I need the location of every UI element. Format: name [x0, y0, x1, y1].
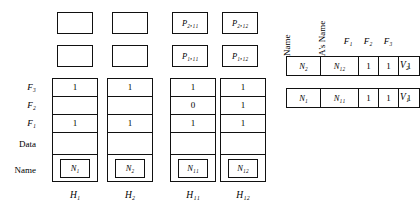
node-h11-name-value: N₁₁ — [178, 159, 208, 178]
node-h1[interactable]: 1 1 N₁ — [52, 78, 98, 182]
node-h1-cell-data — [53, 133, 97, 155]
row-label-f2: F₂ — [8, 100, 36, 110]
pointer-box-h2-mid[interactable] — [112, 45, 148, 67]
table-header-ancestor-name: A's Name — [317, 21, 327, 56]
node-h11[interactable]: 1 0 1 N₁₁ — [170, 78, 216, 182]
node-h11-cell-f1: 1 — [171, 115, 215, 133]
node-h11-cell-f3: 1 — [171, 79, 215, 97]
node-h12-cell-data — [221, 133, 265, 155]
node-h1-cell-f3: 1 — [53, 79, 97, 97]
node-h1-cell-f1: 1 — [53, 115, 97, 133]
pointer-box-h1-top[interactable] — [57, 12, 93, 34]
node-h12-name-value: N₁₂ — [228, 159, 258, 178]
node-h12-cell-f3: 1 — [221, 79, 265, 97]
pointer-box-h1-mid[interactable] — [57, 45, 93, 67]
node-h12-cell-f1: 1 — [221, 115, 265, 133]
table-header-name: Name — [282, 35, 292, 57]
pointer-box-h12-mid[interactable]: P₁,₁₂ — [222, 45, 258, 67]
tuple-v1-name: N₁ — [287, 89, 321, 107]
caption-h12: H₁₂ — [220, 190, 266, 200]
node-h12-cell-f2: 1 — [221, 97, 265, 115]
tuple-v2-label: V₂ — [400, 60, 409, 70]
tuple-v1-ancestor-name: N₁₁ — [321, 89, 359, 107]
caption-h1: H₁ — [52, 190, 98, 200]
pointer-box-h2-top[interactable] — [112, 12, 148, 34]
caption-h2: H₂ — [107, 190, 153, 200]
row-label-name: Name — [1, 165, 36, 175]
node-h2-cell-f1: 1 — [108, 115, 152, 133]
table-header-f3: F₃ — [378, 36, 398, 46]
tuple-v2-name: N₂ — [287, 57, 321, 75]
node-h12-cell-name: N₁₂ — [221, 155, 265, 181]
node-h2-cell-name: N₂ — [108, 155, 152, 181]
row-label-data: Data — [4, 139, 36, 149]
node-h12[interactable]: 1 1 1 N₁₂ — [220, 78, 266, 182]
node-h2-cell-f2 — [108, 97, 152, 115]
row-label-f1: F₁ — [8, 118, 36, 128]
pointer-box-h11-mid[interactable]: P₁,₁₁ — [172, 45, 208, 67]
node-h1-cell-f2 — [53, 97, 97, 115]
tuple-v1-label: V₁ — [400, 92, 409, 102]
tuple-v2-f2: 1 — [379, 57, 399, 75]
pointer-box-h11-top[interactable]: P₂,₁₁ — [172, 12, 208, 34]
tuple-v1-f2: 1 — [379, 89, 399, 107]
node-h2[interactable]: 1 1 N₂ — [107, 78, 153, 182]
caption-h11: H₁₁ — [170, 190, 216, 200]
table-header-f1: F₁ — [338, 36, 358, 46]
node-h2-cell-f3: 1 — [108, 79, 152, 97]
tuple-v1-f1: 1 — [359, 89, 379, 107]
tuple-v2-f1: 1 — [359, 57, 379, 75]
table-header-f2: F₂ — [358, 36, 378, 46]
node-h11-cell-data — [171, 133, 215, 155]
node-h11-cell-name: N₁₁ — [171, 155, 215, 181]
row-label-f3: F₃ — [8, 82, 36, 92]
node-h1-cell-name: N₁ — [53, 155, 97, 181]
node-h2-name-value: N₂ — [115, 159, 145, 178]
tuple-v2-ancestor-name: N₁₂ — [321, 57, 359, 75]
pointer-box-h12-top[interactable]: P₂,₁₂ — [222, 12, 258, 34]
node-h11-cell-f2: 0 — [171, 97, 215, 115]
node-h1-name-value: N₁ — [60, 159, 90, 178]
node-h2-cell-data — [108, 133, 152, 155]
